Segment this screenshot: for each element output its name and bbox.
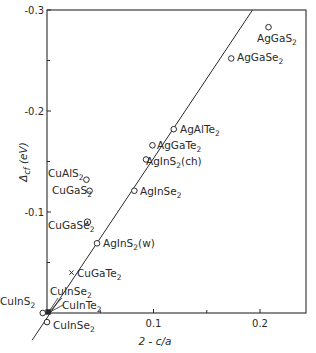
point-labels: AgGaS2AgGaSe2AgAlTe2AgGaTe2AgInS2(ch)AgI… — [0, 32, 297, 334]
point-label: CuAlS2 — [48, 167, 84, 182]
point-label: CuInSe2 — [53, 319, 95, 334]
y-tick-label: -0.1 — [24, 207, 44, 218]
circle-marker — [44, 319, 50, 325]
point-label: AgGaSe2 — [237, 51, 284, 66]
x-tick-label: 0.1 — [146, 318, 162, 329]
circle-marker — [94, 241, 100, 247]
point-label: AgGaS2 — [257, 32, 297, 47]
y-axis-label: Δcf (eV) — [17, 142, 32, 183]
point-label: AgInS2(w) — [103, 237, 155, 252]
point-label: CuGaTe2 — [77, 267, 122, 282]
point-label: CuInTe2 — [62, 299, 102, 314]
cross-marker — [69, 270, 73, 274]
point-label: AgInS2(ch) — [146, 155, 202, 170]
leader-line — [48, 298, 62, 313]
y-tick-label: -0.2 — [24, 106, 44, 117]
circle-marker — [84, 177, 90, 183]
point-label: CuGaSe2 — [48, 219, 95, 234]
circle-marker — [228, 56, 234, 62]
x-tick-label: 0.2 — [252, 318, 268, 329]
circle-marker — [132, 188, 138, 194]
y-tick-label: -0.3 — [24, 5, 44, 16]
point-label: AgGaTe2 — [157, 139, 202, 154]
point-label: CuGaS2 — [52, 184, 92, 199]
point-label: CuInSe2 — [50, 285, 92, 300]
circle-marker — [40, 310, 46, 316]
circle-marker — [266, 24, 272, 30]
x-axis-label: 2 - c/a — [139, 335, 172, 347]
point-label: AgAlTe2 — [180, 123, 220, 138]
scatter-chart: 0.10.2-0.3-0.2-0.1 AgGaS2AgGaSe2AgAlTe2A… — [0, 0, 316, 353]
circle-marker — [150, 143, 156, 149]
point-label: AgInSe2 — [140, 185, 182, 200]
circle-marker — [171, 126, 177, 132]
point-label: CuInS2 — [0, 295, 35, 310]
